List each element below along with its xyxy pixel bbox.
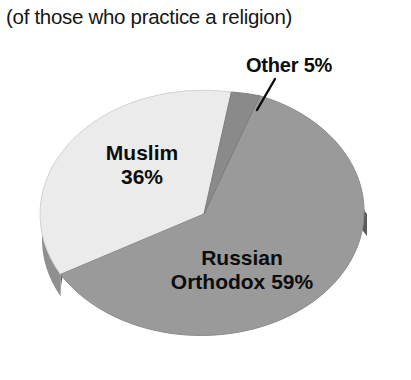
slice-label-muslim-line1: Muslim [84,141,200,165]
slice-label-other-line1: Other 5% [246,54,332,77]
slice-label-russian-orthodox-line1: Russian [146,246,338,270]
slice-label-other: Other 5% [246,54,332,77]
slice-label-muslim: Muslim 36% [84,141,200,188]
slice-label-russian-orthodox: Russian Orthodox 59% [146,246,338,293]
pie-chart-figure: (of those who practice a religion) [0,0,411,380]
pie-top-face [40,90,364,335]
pie-chart-graphic [0,0,411,380]
slice-label-muslim-line2: 36% [84,165,200,189]
slice-label-russian-orthodox-line2: Orthodox 59% [146,270,338,294]
